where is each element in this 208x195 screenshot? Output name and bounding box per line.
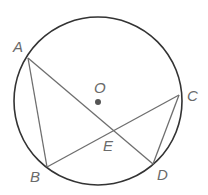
segment-ad: [28, 58, 153, 164]
center-point-o: [95, 99, 101, 105]
segment-cd: [153, 95, 179, 164]
label-e: E: [103, 137, 114, 154]
label-b: B: [30, 168, 40, 185]
segment-bc: [47, 95, 179, 167]
label-c: C: [187, 87, 198, 104]
point-labels: ABCDE: [12, 38, 198, 185]
label-o: O: [94, 79, 106, 96]
label-a: A: [12, 38, 23, 55]
circle-diagram: O ABCDE: [0, 0, 208, 195]
label-d: D: [157, 166, 168, 183]
